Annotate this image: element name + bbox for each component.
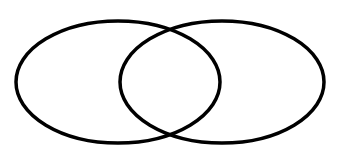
left-set-ellipse: [16, 21, 220, 143]
venn-svg: [0, 0, 343, 155]
venn-diagram: [0, 0, 343, 155]
right-set-ellipse: [120, 21, 324, 143]
